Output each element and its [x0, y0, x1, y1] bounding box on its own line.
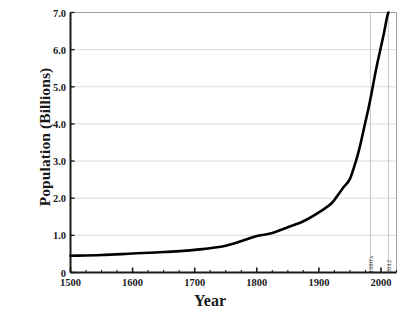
data-curve	[71, 13, 389, 256]
x-tick-label: 1900	[308, 277, 329, 288]
x-tick-label: 1800	[246, 277, 267, 288]
x-tick-label: 1600	[122, 277, 143, 288]
x-tick-label: 1500	[60, 277, 81, 288]
y-tick-label: 3.0	[30, 156, 66, 167]
y-tick-label: 4.0	[30, 118, 66, 129]
x-tick-label: 1700	[184, 277, 205, 288]
y-tick-label: 1.0	[30, 230, 66, 241]
y-tick-label: 5.0	[30, 81, 66, 92]
annotation-label: 1980's	[367, 256, 374, 273]
x-tick-label: 2000	[370, 277, 391, 288]
y-tick-label: 6.0	[30, 44, 66, 55]
axis-ticks	[71, 13, 397, 273]
population-chart: Population (Billions) Year 01.02.03.04.0…	[0, 0, 420, 320]
y-tick-label: 7.0	[30, 7, 66, 18]
axis-frame	[71, 13, 397, 273]
gridlines	[71, 13, 397, 236]
x-axis-title: Year	[0, 292, 420, 310]
annotation-label: 2012	[385, 260, 392, 273]
y-tick-label: 2.0	[30, 193, 66, 204]
